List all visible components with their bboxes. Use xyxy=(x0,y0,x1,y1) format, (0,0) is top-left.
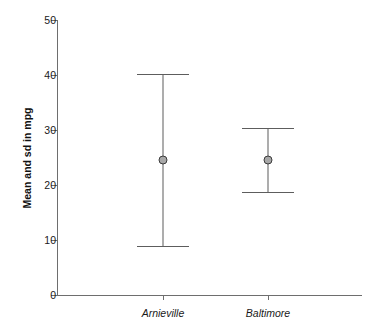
x-tick-label-baltimore: Baltimore xyxy=(246,307,290,319)
y-tick-label-50: 50 xyxy=(44,15,56,26)
y-axis-title: Mean and sd in mpg xyxy=(21,88,33,228)
error-bar-chart: 0 10 20 30 40 50 Mean and sd in mpg Arni… xyxy=(0,0,378,335)
y-tick-label-30: 30 xyxy=(44,125,56,136)
data-point-baltimore xyxy=(264,156,273,165)
errorbar-lower-cap-baltimore xyxy=(242,192,294,193)
plot-area: 0 10 20 30 40 50 Mean and sd in mpg Arni… xyxy=(0,0,378,335)
x-tick-label-arnieville: Arnieville xyxy=(142,307,185,319)
x-tick-mark-baltimore xyxy=(268,295,269,300)
errorbar-lower-cap-arnieville xyxy=(137,246,189,247)
data-point-arnieville xyxy=(159,156,168,165)
errorbar-upper-cap-baltimore xyxy=(242,128,294,129)
y-tick-label-40: 40 xyxy=(44,70,56,81)
x-tick-mark-arnieville xyxy=(163,295,164,300)
y-tick-label-20: 20 xyxy=(44,180,56,191)
errorbar-upper-cap-arnieville xyxy=(137,74,189,75)
y-axis-line xyxy=(57,20,58,296)
y-tick-label-0: 0 xyxy=(50,290,56,301)
x-axis-line xyxy=(57,295,362,296)
y-tick-label-10: 10 xyxy=(44,235,56,246)
